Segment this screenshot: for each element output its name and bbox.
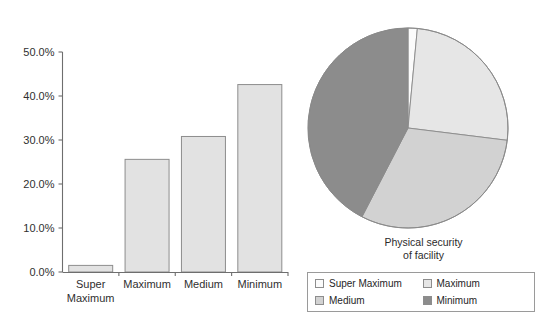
bar-chart-x-axis: SuperMaximumMaximumMediumMinimum [67, 272, 288, 304]
legend-item-minimum[interactable]: Minimum [423, 295, 531, 307]
y-tick-label: 20.0% [23, 178, 54, 190]
y-tick-label: 40.0% [23, 90, 54, 102]
pie-chart-caption: Physical security of facility [300, 236, 547, 262]
pie-chart-legend: Super Maximum Maximum Medium Minimum [307, 272, 535, 312]
bar-chart-y-axis: 0.0%10.0%20.0%30.0%40.0%50.0% [23, 46, 62, 278]
bar-maximum[interactable] [125, 159, 169, 272]
x-tick-label: Super [76, 278, 106, 290]
legend-item-maximum[interactable]: Maximum [423, 278, 531, 290]
bar-medium[interactable] [181, 136, 225, 272]
y-tick-label: 50.0% [23, 46, 54, 58]
bar-super-maximum[interactable] [69, 265, 113, 272]
y-tick-label: 30.0% [23, 134, 54, 146]
x-tick-label: Medium [184, 278, 223, 290]
pie-caption-line-1: Physical security [300, 236, 547, 249]
x-tick-label: Minimum [238, 278, 283, 290]
legend-label-maximum: Maximum [437, 278, 480, 290]
legend-item-super-maximum[interactable]: Super Maximum [315, 278, 423, 290]
bar-chart-panel: 0.0%10.0%20.0%30.0%40.0%50.0% SuperMaxim… [0, 0, 300, 325]
legend-label-medium: Medium [329, 295, 365, 307]
x-tick-label: Maximum [123, 278, 171, 290]
pie-chart-svg [300, 0, 547, 240]
pie-slice-maximum[interactable] [408, 28, 508, 140]
legend-label-minimum: Minimum [437, 295, 478, 307]
pie-slices-group [308, 28, 508, 228]
bar-chart-bars [69, 85, 282, 272]
pie-caption-line-2: of facility [300, 249, 547, 262]
y-tick-label: 10.0% [23, 222, 54, 234]
x-tick-label: Maximum [67, 292, 115, 304]
legend-swatch-super-maximum [315, 279, 324, 288]
legend-swatch-maximum [423, 279, 432, 288]
legend-item-medium[interactable]: Medium [315, 295, 423, 307]
bar-chart-svg: 0.0%10.0%20.0%30.0%40.0%50.0% SuperMaxim… [0, 0, 300, 325]
bar-minimum[interactable] [238, 85, 282, 272]
legend-swatch-medium [315, 296, 324, 305]
legend-swatch-minimum [423, 296, 432, 305]
legend-label-super-maximum: Super Maximum [329, 278, 402, 290]
y-tick-label: 0.0% [29, 266, 54, 278]
